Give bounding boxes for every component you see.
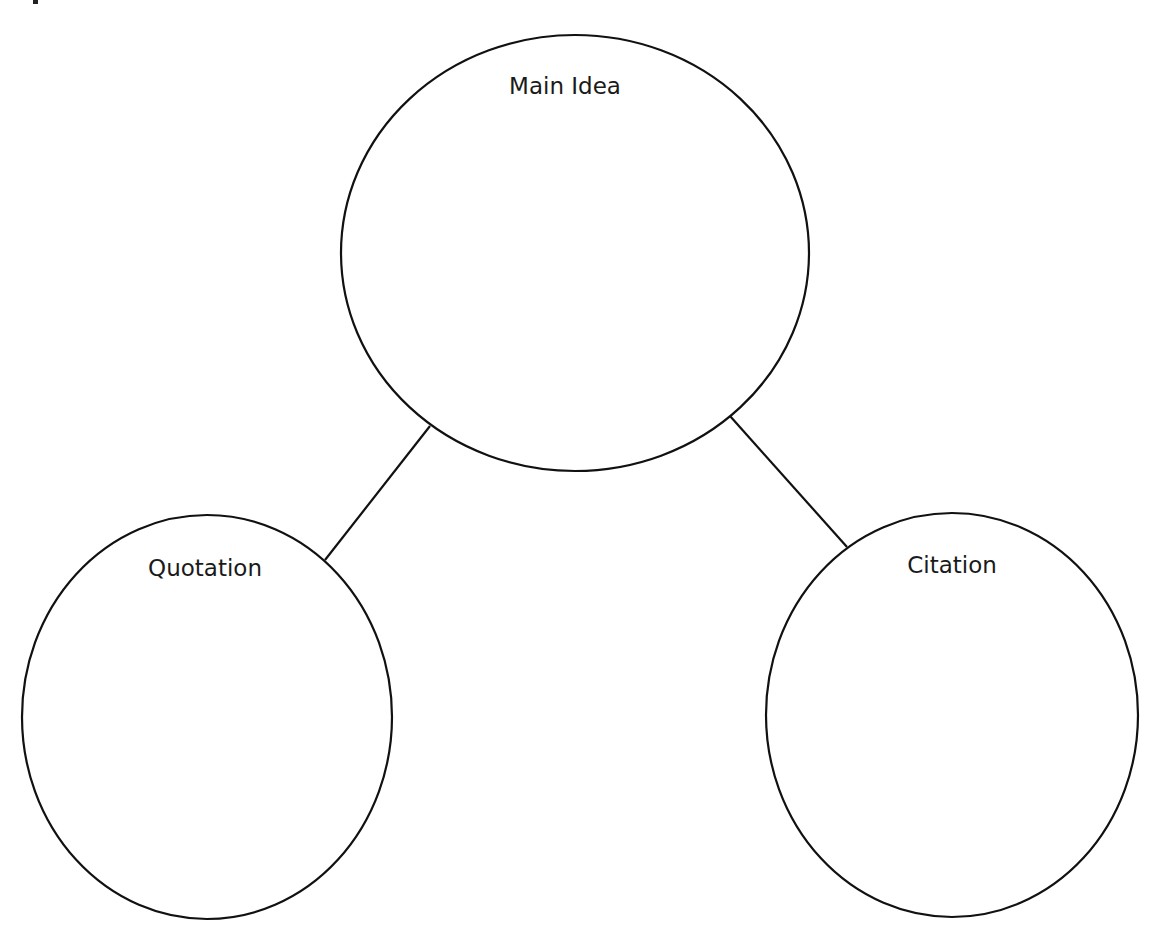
main-idea-label: Main Idea (509, 73, 621, 99)
node-main-idea: Main Idea (341, 35, 809, 471)
edge-main-quotation (325, 426, 430, 560)
bubble-diagram: Main Idea Quotation Citation (0, 0, 1159, 950)
edge-main-citation (730, 416, 847, 547)
main-idea-bubble (341, 35, 809, 471)
citation-label: Citation (907, 552, 997, 578)
node-citation: Citation (766, 513, 1138, 917)
corner-mark (33, 0, 38, 4)
node-quotation: Quotation (22, 515, 392, 919)
quotation-label: Quotation (148, 555, 262, 581)
